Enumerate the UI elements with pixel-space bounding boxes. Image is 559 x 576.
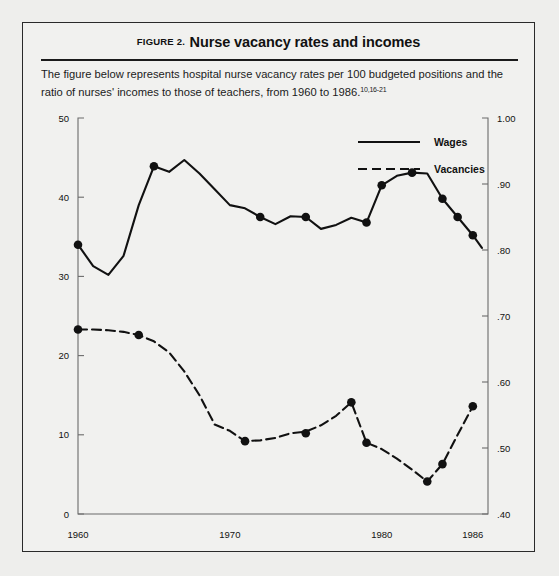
chart-legend: WagesVacancies <box>358 136 485 175</box>
data-point-vacancies <box>301 429 310 438</box>
x-tick-label: 1980 <box>371 529 392 540</box>
right-tick-label: 1.00 <box>497 113 516 124</box>
data-point-vacancies <box>438 460 447 469</box>
left-tick-label: 10 <box>58 429 69 440</box>
data-point-wages <box>256 213 265 222</box>
series-line-vacancies <box>78 329 473 481</box>
left-tick-label: 30 <box>58 271 69 282</box>
data-point-wages <box>74 240 83 249</box>
data-point-vacancies <box>469 402 478 411</box>
bottom-axis-ticks: 1960197019801986 <box>67 529 483 540</box>
data-point-wages <box>377 181 386 190</box>
right-tick-label: .70 <box>497 311 510 322</box>
right-tick-label: .80 <box>497 245 510 256</box>
left-tick-label: 50 <box>58 113 69 124</box>
data-point-wages <box>362 218 371 227</box>
data-point-vacancies <box>423 477 432 486</box>
right-axis-ticks: .40.50.60.70.80.901.00 <box>482 113 516 520</box>
data-point-vacancies <box>134 331 143 340</box>
x-tick-label: 1986 <box>462 529 483 540</box>
right-tick-label: .50 <box>497 443 510 454</box>
data-point-wages <box>469 231 478 240</box>
data-point-vacancies <box>362 438 371 447</box>
left-tick-label: 40 <box>58 192 69 203</box>
data-point-wages <box>301 213 310 222</box>
data-point-vacancies <box>74 325 83 334</box>
chart-axes <box>78 118 488 514</box>
data-point-wages <box>453 213 462 222</box>
legend-label-vacancies: Vacancies <box>434 163 485 175</box>
chart-series-layer <box>74 160 482 486</box>
left-tick-label: 20 <box>58 350 69 361</box>
left-tick-label: 0 <box>64 509 69 520</box>
right-tick-label: .90 <box>497 179 510 190</box>
x-tick-label: 1960 <box>67 529 88 540</box>
left-axis-ticks: 01020304050 <box>58 113 84 520</box>
figure-card: FIGURE 2. Nurse vacancy rates and income… <box>22 22 535 552</box>
right-tick-label: .40 <box>497 509 510 520</box>
nurse-vacancy-income-chart: 01020304050 .40.50.60.70.80.901.00 19601… <box>23 23 536 553</box>
data-point-wages <box>150 162 159 171</box>
chart-plot-area: 01020304050 .40.50.60.70.80.901.00 19601… <box>23 23 536 553</box>
right-tick-label: .60 <box>497 377 510 388</box>
data-point-wages <box>438 194 447 203</box>
left-axis-line <box>78 118 84 514</box>
data-point-vacancies <box>241 437 250 446</box>
series-line-wages <box>78 160 482 275</box>
data-point-vacancies <box>347 398 356 407</box>
legend-label-wages: Wages <box>434 136 468 148</box>
x-tick-label: 1970 <box>219 529 240 540</box>
